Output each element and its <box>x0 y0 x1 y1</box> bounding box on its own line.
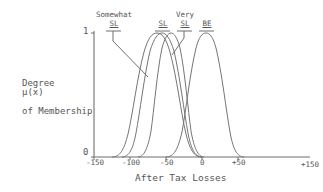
somewhat-sl-label: Somewhat SL <box>86 10 142 28</box>
x-tick-label-50: +50 <box>232 159 246 167</box>
curve-be <box>166 33 244 157</box>
sl-label: SL <box>152 19 174 28</box>
y-axis-symbol: μ(x) <box>22 88 44 97</box>
somewhat-sl-label-word: Somewhat <box>86 10 142 19</box>
x-tick-label--50: -50 <box>160 159 174 167</box>
fuzzy-membership-chart: Degree of Membership μ(x) 1 0 -150 -100 … <box>0 0 323 192</box>
somewhat-sl-label-abbr: SL <box>86 19 142 28</box>
y-tick-label-1: 1 <box>83 27 88 36</box>
be-label: BE <box>196 19 218 28</box>
sl-label-abbr: SL <box>152 19 174 28</box>
x-tick-label--100: -100 <box>122 159 140 167</box>
x-tick-label--150: -150 <box>86 159 104 167</box>
very-sl-label: Very SL <box>172 10 198 28</box>
x-tick-label-150: +150 <box>301 161 319 169</box>
very-sl-label-word: Very <box>172 10 198 19</box>
curve-very-sl <box>138 33 204 157</box>
y-axis-label-word-ofmembership: of Membership <box>22 107 92 116</box>
x-axis-title: After Tax Losses <box>135 173 227 183</box>
curve-somewhat-sl <box>112 33 202 157</box>
be-label-abbr: BE <box>196 19 218 28</box>
very-sl-label-abbr: SL <box>172 19 198 28</box>
y-axis-label-block: Degree of Membership <box>22 60 92 136</box>
y-tick-label-0: 0 <box>83 148 88 157</box>
curve-sl <box>122 33 202 157</box>
x-tick-label-0: 0 <box>200 159 205 167</box>
